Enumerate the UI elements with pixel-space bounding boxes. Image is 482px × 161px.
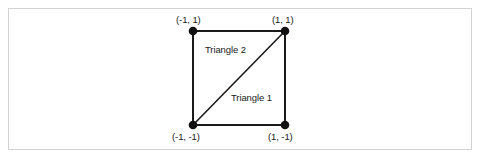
vertex-label-top-left: (-1, 1) xyxy=(176,14,201,25)
vertex-label-bottom-right: (1, -1) xyxy=(268,131,293,142)
region-label-triangle-2: Triangle 2 xyxy=(205,44,246,55)
figure-root: (-1, 1) (1, 1) (-1, -1) (1, -1) Triangle… xyxy=(0,0,482,161)
vertex-label-top-right: (1, 1) xyxy=(272,14,294,25)
region-label-triangle-1: Triangle 1 xyxy=(231,92,272,103)
figure-frame-border xyxy=(8,8,472,150)
vertex-label-bottom-left: (-1, -1) xyxy=(172,131,200,142)
